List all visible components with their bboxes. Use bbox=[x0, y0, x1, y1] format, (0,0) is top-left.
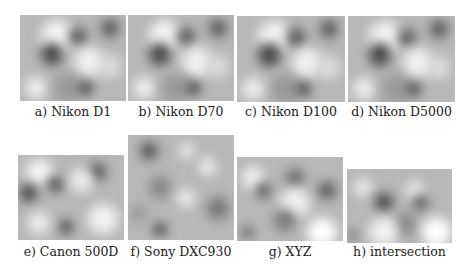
panel-image-a bbox=[20, 15, 126, 101]
panel-caption-g: g) XYZ bbox=[227, 244, 353, 259]
panel-image-e bbox=[18, 155, 124, 240]
panel-caption-f: f) Sony DXC930 bbox=[118, 244, 244, 259]
panel-image-g bbox=[237, 157, 343, 241]
panel-caption-d: d) Nikon D5000 bbox=[338, 104, 465, 119]
panel-caption-c: c) Nikon D100 bbox=[227, 104, 355, 119]
panel-caption-b: b) Nikon D70 bbox=[118, 104, 244, 119]
panel-caption-h: h) intersection bbox=[337, 244, 462, 259]
panel-caption-e: e) Canon 500D bbox=[8, 244, 134, 259]
panel-image-b bbox=[128, 15, 234, 101]
panel-image-f bbox=[128, 135, 234, 240]
panel-image-h bbox=[347, 169, 452, 243]
panel-image-c bbox=[237, 16, 345, 102]
panel-image-d bbox=[348, 16, 455, 102]
